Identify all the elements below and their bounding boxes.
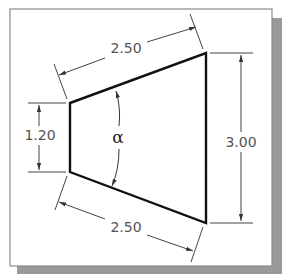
label-right-height: 3.00: [225, 134, 256, 150]
label-left-height: 1.20: [24, 127, 55, 143]
label-top-edge: 2.50: [110, 40, 141, 56]
angle-alpha-label: α: [112, 127, 124, 147]
trapezoid-figure: 3.00 1.20 2.50 2.50 α: [0, 0, 285, 278]
label-bottom-edge: 2.50: [110, 219, 141, 235]
